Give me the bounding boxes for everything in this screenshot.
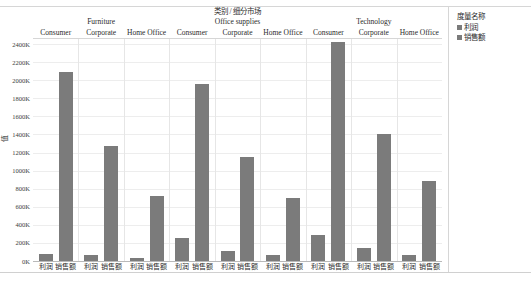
column-header-band: 类别 / 细分市场 FurnitureOffice suppliesTechno… (33, 7, 442, 38)
category-label-furniture: Furniture (33, 17, 169, 26)
panel-separator-1 (78, 39, 79, 262)
panel-separator-7 (351, 39, 352, 262)
bar-furniture-consumer-sales[interactable] (59, 72, 73, 261)
y-tick-1600K: 1600K (0, 113, 30, 120)
legend-item-1[interactable]: 销售额 (457, 33, 527, 42)
legend-swatch-icon-1 (457, 35, 462, 40)
panel-separator-4 (215, 39, 216, 262)
bar-furniture-consumer-profit[interactable] (39, 254, 53, 261)
y-tick-1000K: 1000K (0, 167, 30, 174)
gridline-2000K (33, 80, 442, 81)
segment-label-0[interactable]: Consumer (33, 28, 78, 37)
legend-label-0: 利润 (464, 23, 478, 32)
segment-label-6[interactable]: Consumer (306, 28, 351, 37)
y-tick-2000K: 2000K (0, 77, 30, 84)
segment-label-5[interactable]: Home Office (260, 28, 305, 37)
frame-bottom-divider (0, 272, 531, 273)
category-label-office-supplies: Office supplies (169, 17, 305, 26)
segment-label-4[interactable]: Corporate (215, 28, 260, 37)
legend-label-1: 销售额 (464, 33, 485, 42)
bar-technology-home-office-sales[interactable] (422, 181, 436, 261)
plot-area (33, 39, 442, 262)
bar-technology-corporate-profit[interactable] (357, 248, 371, 261)
segment-label-3[interactable]: Consumer (169, 28, 214, 37)
header-title: 类别 / 细分市场 (33, 7, 442, 16)
bar-office-supplies-consumer-profit[interactable] (175, 238, 189, 261)
y-tick-600K: 600K (0, 203, 30, 210)
measure-tick-17[interactable]: 销售额 (413, 263, 445, 271)
y-tick-2200K: 2200K (0, 59, 30, 66)
bar-technology-consumer-profit[interactable] (311, 235, 325, 261)
bar-technology-corporate-sales[interactable] (377, 134, 391, 261)
y-tick-1200K: 1200K (0, 149, 30, 156)
bar-office-supplies-home-office-sales[interactable] (286, 198, 300, 261)
legend-divider (448, 6, 449, 272)
legend-swatch-icon-0 (457, 25, 462, 30)
panel-separator-2 (124, 39, 125, 262)
bar-chart-viz: 类别 / 细分市场 FurnitureOffice suppliesTechno… (0, 0, 531, 290)
bar-office-supplies-consumer-sales[interactable] (195, 84, 209, 261)
panel-separator-3 (169, 39, 170, 262)
y-tick-400K: 400K (0, 221, 30, 228)
bar-office-supplies-corporate-sales[interactable] (240, 157, 254, 261)
gridline-1600K (33, 116, 442, 117)
gridline-2200K (33, 62, 442, 63)
segment-label-2[interactable]: Home Office (124, 28, 169, 37)
bar-office-supplies-corporate-profit[interactable] (221, 251, 235, 261)
x-axis-baseline (33, 261, 442, 262)
segment-label-1[interactable]: Corporate (78, 28, 123, 37)
y-tick-800K: 800K (0, 185, 30, 192)
legend-items: 利润销售额 (457, 23, 527, 42)
legend: 度量名称 利润销售额 (457, 12, 527, 42)
y-tick-1800K: 1800K (0, 95, 30, 102)
panel-separator-6 (306, 39, 307, 262)
y-tick-200K: 200K (0, 239, 30, 246)
panel-separator-8 (397, 39, 398, 262)
bar-furniture-corporate-sales[interactable] (104, 146, 118, 261)
bar-technology-consumer-sales[interactable] (331, 42, 345, 261)
y-tick-1400K: 1400K (0, 131, 30, 138)
bar-furniture-home-office-sales[interactable] (150, 196, 164, 261)
segment-label-8[interactable]: Home Office (397, 28, 442, 37)
y-tick-2400K: 2400K (0, 41, 30, 48)
category-label-technology: Technology (306, 17, 442, 26)
segment-label-7[interactable]: Corporate (351, 28, 396, 37)
y-tick-0K: 0K (0, 258, 30, 265)
gridline-2400K (33, 44, 442, 45)
legend-title: 度量名称 (457, 12, 527, 22)
gridline-1800K (33, 98, 442, 99)
panel-separator-5 (260, 39, 261, 262)
legend-item-0[interactable]: 利润 (457, 23, 527, 32)
